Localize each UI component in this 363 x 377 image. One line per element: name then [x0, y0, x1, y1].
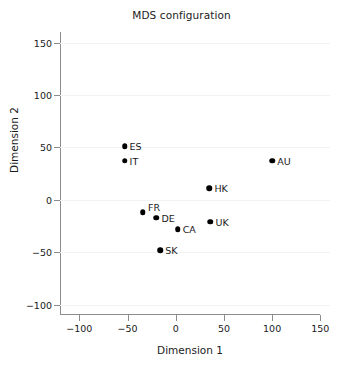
gridline [60, 43, 330, 44]
data-point-label: SK [165, 245, 177, 256]
x-tick-label: 0 [154, 323, 198, 334]
mds-scatter-chart: MDS configuration ESITAUHKFRDEUKCASK −10… [0, 0, 363, 377]
gridline [60, 147, 330, 148]
data-point-label: HK [214, 183, 227, 194]
plot-area: ESITAUHKFRDEUKCASK [60, 30, 330, 315]
y-tick-label: −100 [8, 299, 52, 310]
x-tick-label: 150 [298, 323, 342, 334]
x-tick-mark [320, 315, 321, 321]
x-axis-label: Dimension 1 [60, 344, 320, 356]
data-point-label: AU [277, 155, 290, 166]
data-point-marker [269, 158, 275, 164]
gridline [60, 305, 330, 306]
gridline [60, 95, 330, 96]
data-point-label: UK [215, 216, 228, 227]
y-tick-mark [54, 305, 60, 306]
x-tick-mark [176, 315, 177, 321]
y-tick-mark [54, 252, 60, 253]
data-point-marker [208, 219, 214, 225]
y-tick-label: −50 [8, 247, 52, 258]
gridline [60, 252, 330, 253]
y-tick-mark [54, 200, 60, 201]
chart-title: MDS configuration [0, 9, 363, 21]
x-tick-label: 50 [202, 323, 246, 334]
x-tick-label: −50 [106, 323, 150, 334]
data-point-label: IT [130, 155, 139, 166]
y-tick-mark [54, 95, 60, 96]
data-point-label: ES [130, 141, 142, 152]
data-point-marker [122, 144, 128, 150]
x-tick-mark [128, 315, 129, 321]
data-point-marker [140, 210, 146, 216]
x-tick-mark [79, 315, 80, 321]
x-tick-mark [224, 315, 225, 321]
data-point-marker [175, 226, 181, 232]
x-tick-label: −100 [57, 323, 101, 334]
gridline [60, 200, 330, 201]
data-point-marker [207, 185, 213, 191]
data-point-marker [122, 158, 128, 164]
x-tick-label: 100 [250, 323, 294, 334]
y-axis-label: Dimension 2 [8, 80, 20, 200]
y-tick-mark [54, 43, 60, 44]
data-point-label: CA [183, 224, 196, 235]
data-point-label: FR [148, 202, 160, 213]
y-tick-mark [54, 147, 60, 148]
y-tick-label: 150 [8, 37, 52, 48]
x-tick-mark [272, 315, 273, 321]
data-point-label: DE [161, 212, 174, 223]
data-point-marker [158, 247, 164, 253]
data-point-marker [154, 215, 160, 221]
